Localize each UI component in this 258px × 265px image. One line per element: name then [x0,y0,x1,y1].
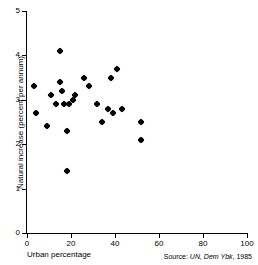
data-point [52,101,59,108]
y-axis-line [26,11,27,234]
data-point [107,74,114,81]
y-axis-title: Natural increase (percent per annum) [16,43,25,203]
x-tick-label-100: 100 [235,240,258,248]
x-tick-80 [203,234,204,238]
x-tick-20 [71,234,72,238]
x-tick-label-80: 80 [191,240,215,248]
data-point [98,118,105,125]
x-tick-label-40: 40 [103,240,127,248]
x-tick-100 [247,234,248,238]
y-tick-label-5: 5 [8,7,20,15]
data-point [138,136,145,143]
x-tick-0 [27,234,28,238]
x-tick-label-20: 20 [59,240,83,248]
y-tick-5 [22,11,26,12]
data-point [59,87,66,94]
x-tick-40 [115,234,116,238]
y-tick-label-0: 0 [8,229,20,237]
x-axis-title: Urban percentage [27,250,91,259]
data-point [32,110,39,117]
data-point [114,65,121,72]
data-point [94,101,101,108]
data-point [43,123,50,130]
x-tick-label-0: 0 [15,240,39,248]
source-publication: UN, Dem Ybk [190,253,233,260]
data-point [81,74,88,81]
data-point [118,105,125,112]
data-point [48,92,55,99]
source-prefix: Source: [164,253,190,260]
data-point [63,167,70,174]
data-point [30,83,37,90]
x-tick-label-60: 60 [147,240,171,248]
data-point [138,118,145,125]
source-note: Source: UN, Dem Ybk, 1985 [164,252,252,261]
data-point [109,110,116,117]
source-suffix: , 1985 [233,253,252,260]
data-point [63,127,70,134]
y-tick-0 [22,233,26,234]
x-axis-line [27,233,248,234]
chart-page: 012345 020406080100 Urban percentage Nat… [0,0,258,265]
data-point [85,83,92,90]
x-tick-60 [159,234,160,238]
data-point [56,78,63,85]
data-point [56,47,63,54]
